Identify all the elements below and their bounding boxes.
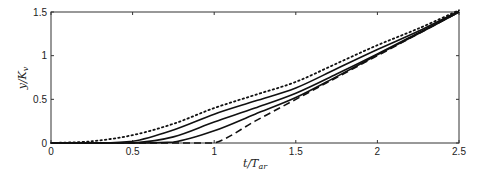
y-tick-label: 0: [41, 138, 47, 149]
x-tick-label: 0.5: [126, 146, 140, 157]
plot-border: [51, 12, 459, 143]
x-tick-label: 0: [48, 146, 54, 157]
series-solid-3: [51, 12, 459, 143]
x-tick-label: 1.5: [289, 146, 303, 157]
x-tick-label: 2: [375, 146, 381, 157]
x-tick-label: 1: [211, 146, 217, 157]
x-axis-label: t/Tar: [243, 157, 268, 171]
x-tick-label: 2.5: [452, 146, 466, 157]
series-solid-2: [51, 12, 459, 143]
data-series: [51, 10, 459, 143]
plot-frame: [51, 12, 459, 143]
series-dashed: [51, 12, 459, 143]
y-tick-label: 0.5: [33, 94, 47, 105]
axis-ticks: 00.511.522.500.511.5: [33, 7, 466, 158]
series-dotted: [51, 10, 459, 143]
y-tick-label: 1.5: [33, 7, 47, 18]
chart: 00.511.522.500.511.5 t/Tar y/Kv: [0, 0, 482, 174]
series-solid-1: [51, 11, 459, 143]
y-tick-label: 1: [41, 50, 47, 61]
y-axis-label: y/Kv: [16, 66, 30, 90]
